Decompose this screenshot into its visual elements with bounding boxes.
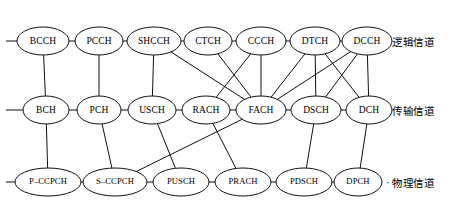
channel-node-shcch[interactable]: SHCCH [127, 27, 181, 55]
edge-FACH-to-S-CCPCH [136, 119, 242, 171]
node-label-shcch: SHCCH [138, 36, 170, 46]
channel-mapping-diagram: BCCHPCCHSHCCHCTCHCCCHDTCHDCCHBCHPCHUSCHR… [0, 0, 458, 200]
channel-nodes: BCCHPCCHSHCCHCTCHCCCHDTCHDCCHBCHPCHUSCHR… [15, 27, 392, 196]
edge-BCCH-to-BCH [44, 55, 46, 96]
channel-node-pcch[interactable]: PCCH [75, 27, 123, 55]
node-label-pcch: PCCH [86, 36, 111, 46]
node-label-s-ccpch: S–CCPCH [96, 176, 134, 186]
row-stub-lines [6, 41, 23, 182]
node-label-dch: DCH [359, 105, 379, 115]
channel-node-p-ccpch[interactable]: P–CCPCH [15, 168, 81, 196]
edge-BCH-to-P-CCPCH [46, 124, 47, 168]
channel-node-ctch[interactable]: CTCH [184, 27, 232, 55]
node-label-bch: BCH [36, 105, 56, 115]
channel-node-rach[interactable]: RACH [182, 96, 230, 124]
node-label-dpch: DPCH [346, 176, 369, 186]
node-label-p-ccpch: P–CCPCH [29, 176, 67, 186]
node-label-ccch: CCCH [248, 36, 274, 46]
edge-RACH-to-PRACH [213, 123, 236, 168]
node-label-pdsch: PDSCH [290, 176, 318, 186]
node-label-bcch: BCCH [30, 36, 56, 46]
channel-node-prach[interactable]: PRACH [215, 168, 271, 196]
edge-DSCH-to-PDSCH [306, 124, 313, 168]
channel-node-bcch[interactable]: BCCH [17, 27, 69, 55]
node-label-ctch: CTCH [195, 36, 221, 46]
node-label-prach: PRACH [228, 176, 257, 186]
channel-node-pusch[interactable]: PUSCH [153, 168, 209, 196]
channel-node-dch[interactable]: DCH [346, 96, 392, 124]
channel-node-s-ccpch[interactable]: S–CCPCH [83, 168, 147, 196]
channel-node-dcch[interactable]: DCCH [342, 27, 392, 55]
channel-node-dsch[interactable]: DSCH [291, 96, 341, 124]
node-label-pch: PCH [90, 105, 109, 115]
channel-node-fach[interactable]: FACH [236, 96, 286, 124]
node-label-dsch: DSCH [303, 105, 329, 115]
more-physical-channels-ellipsis: ··· [386, 176, 400, 188]
channel-node-usch[interactable]: USCH [128, 96, 176, 124]
edge-SHCCH-to-USCH [152, 55, 153, 96]
node-label-fach: FACH [248, 105, 273, 115]
channel-diagram-canvas: BCCHPCCHSHCCHCTCHCCCHDTCHDCCHBCHPCHUSCHR… [0, 0, 458, 200]
row-label-transport: 传输信道 [392, 103, 434, 118]
edge-DTCH-to-FACH [271, 54, 305, 97]
channel-node-ccch[interactable]: CCCH [236, 27, 286, 55]
node-label-pusch: PUSCH [167, 176, 195, 186]
edge-PCH-to-S-CCPCH [102, 124, 112, 168]
channel-node-bch[interactable]: BCH [23, 96, 69, 124]
channel-node-pdsch[interactable]: PDSCH [276, 168, 332, 196]
node-label-rach: RACH [193, 105, 220, 115]
node-label-usch: USCH [139, 105, 165, 115]
edge-USCH-to-PUSCH [157, 124, 175, 169]
channel-node-dtch[interactable]: DTCH [290, 27, 340, 55]
node-label-dtch: DTCH [302, 36, 328, 46]
channel-node-dpch[interactable]: DPCH [334, 168, 382, 196]
row-label-logical: 逻辑信道 [392, 34, 434, 49]
edge-DCH-to-DPCH [360, 124, 367, 168]
node-label-dcch: DCCH [354, 36, 381, 46]
edge-DTCH-to-DSCH [315, 55, 316, 96]
channel-node-pch[interactable]: PCH [77, 96, 121, 124]
edge-DCCH-to-DCH [367, 55, 368, 96]
